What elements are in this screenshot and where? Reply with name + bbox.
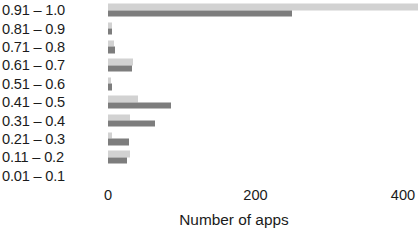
bar-group <box>108 131 420 146</box>
chart-category-row: 0.11 – 0.2 <box>0 148 420 166</box>
bar-series-dark <box>108 47 115 53</box>
chart-category-row: 0.01 – 0.1 <box>0 167 420 185</box>
bar-series-dark <box>108 157 127 163</box>
bar-series-dark <box>108 102 171 108</box>
chart-category-row: 0.81 – 0.9 <box>0 19 420 37</box>
x-tick-label: 200 <box>243 188 267 203</box>
category-label: 0.11 – 0.2 <box>2 150 98 165</box>
category-label: 0.41 – 0.5 <box>2 95 98 110</box>
x-axis-title: Number of apps <box>0 212 420 227</box>
bar-series-dark <box>108 10 292 16</box>
x-axis-title-label: Number of apps <box>179 212 289 227</box>
bar-group <box>108 95 420 110</box>
category-label: 0.21 – 0.3 <box>2 132 98 147</box>
x-tick-label: 400 <box>391 188 415 203</box>
bar-series-dark <box>108 65 132 71</box>
category-label: 0.01 – 0.1 <box>2 168 98 183</box>
chart-category-row: 0.51 – 0.6 <box>0 75 420 93</box>
bar-series-dark <box>108 139 129 145</box>
chart-category-row: 0.71 – 0.8 <box>0 38 420 56</box>
bar-chart-figure: 0.91 – 1.00.81 – 0.90.71 – 0.80.61 – 0.7… <box>0 0 420 237</box>
bar-series-dark <box>108 121 155 127</box>
bar-group <box>108 39 420 54</box>
category-label: 0.31 – 0.4 <box>2 113 98 128</box>
category-label: 0.81 – 0.9 <box>2 21 98 36</box>
plot-area: 0.91 – 1.00.81 – 0.90.71 – 0.80.61 – 0.7… <box>0 0 420 188</box>
category-label: 0.71 – 0.8 <box>2 40 98 55</box>
chart-category-row: 0.61 – 0.7 <box>0 56 420 74</box>
chart-category-row: 0.41 – 0.5 <box>0 93 420 111</box>
chart-category-row: 0.21 – 0.3 <box>0 130 420 148</box>
chart-category-row: 0.31 – 0.4 <box>0 111 420 129</box>
x-tick-label: 0 <box>104 188 112 203</box>
category-label: 0.91 – 1.0 <box>2 3 98 18</box>
bar-group <box>108 58 420 73</box>
bar-group <box>108 168 420 183</box>
bar-group <box>108 76 420 91</box>
bar-series-dark <box>108 29 112 35</box>
bar-group <box>108 150 420 165</box>
chart-category-row: 0.91 – 1.0 <box>0 1 420 19</box>
bar-group <box>108 113 420 128</box>
category-label: 0.51 – 0.6 <box>2 76 98 91</box>
category-label: 0.61 – 0.7 <box>2 58 98 73</box>
bar-group <box>108 3 420 18</box>
bar-series-dark <box>108 84 112 90</box>
bar-group <box>108 21 420 36</box>
